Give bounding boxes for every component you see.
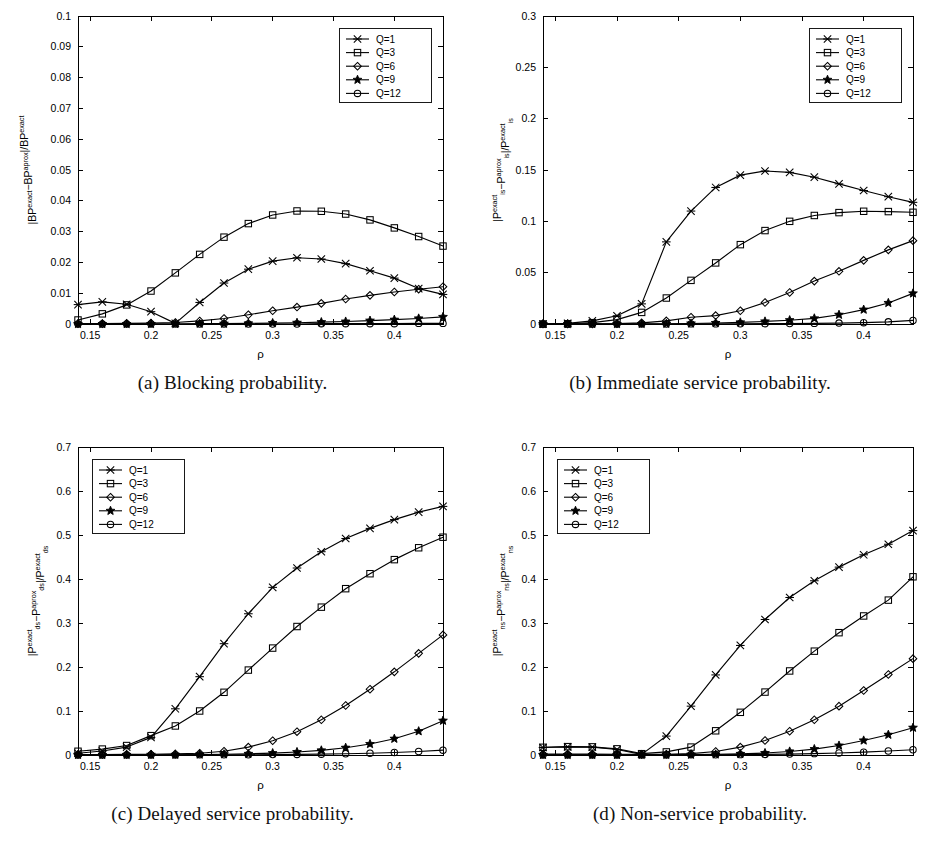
plot-area-b: 0.150.20.250.30.350.400.050.10.150.20.25… [465,0,935,370]
asterisk-marker [736,171,745,178]
x-tick-label: 0.3 [733,760,748,772]
y-tick-label: 0 [530,318,536,330]
asterisk-marker [785,594,794,601]
legend-label: Q=6 [129,492,149,503]
series-line [543,211,913,324]
x-tick-label: 0.4 [856,329,871,341]
legend-label: Q=9 [376,74,396,85]
legend: Q=1Q=3Q=6Q=9Q=12 [92,459,184,533]
legend-label: Q=9 [129,505,149,516]
series-line [78,506,443,753]
panel-c: 0.150.20.250.30.350.400.10.20.30.40.50.6… [0,431,465,862]
x-tick-label: 0.2 [610,329,625,341]
series-line [543,171,913,324]
series-line [543,577,913,754]
x-tick-label: 0.35 [792,329,813,341]
legend-label: Q=6 [846,61,866,72]
x-tick-label: 0.2 [144,760,159,772]
asterisk-marker [268,584,277,591]
asterisk-marker [810,577,819,584]
y-tick-label: 0.3 [56,617,71,629]
asterisk-marker [835,180,844,187]
legend-label: Q=1 [129,465,149,476]
star-marker [439,312,448,320]
x-tick-label: 0.35 [323,760,344,772]
caption-a: (a) Blocking probability. [138,372,328,394]
asterisk-marker [884,541,893,548]
legend-label: Q=1 [594,465,614,476]
legend-label: Q=12 [129,519,154,530]
y-tick-label: 0.2 [521,661,536,673]
y-tick-label: 0.3 [521,617,536,629]
series-q-12 [75,747,446,758]
star-marker [366,739,375,747]
x-tick-label: 0.3 [265,329,280,341]
x-tick-label: 0.35 [323,329,344,341]
x-axis-title: ρ [725,348,732,360]
x-tick-label: 0.25 [202,760,223,772]
star-marker [414,727,423,735]
chart-svg-a: 0.150.20.250.30.350.400.010.020.030.040.… [0,0,465,370]
asterisk-marker [244,610,253,617]
plot-area-c: 0.150.20.250.30.350.400.10.20.30.40.50.6… [0,431,465,801]
y-axis-title: |Pexactns−Paproxns|/Pexactns [490,545,515,656]
series-line [78,537,443,751]
star-marker [390,734,399,742]
x-tick-label: 0.15 [545,760,566,772]
asterisk-marker [341,260,350,267]
star-marker [884,298,893,306]
asterisk-marker [711,184,720,191]
x-tick-label: 0.15 [80,329,101,341]
chart-svg-d: 0.150.20.250.30.350.400.10.20.30.40.50.6… [465,431,935,801]
panel-b: 0.150.20.250.30.350.400.050.10.150.20.25… [465,0,935,431]
y-tick-label: 0.7 [521,441,536,453]
asterisk-marker [687,207,696,214]
star-marker [810,314,819,322]
star-marker [884,730,893,738]
series-q-6 [539,237,917,328]
y-tick-label: 0.3 [521,10,536,22]
x-tick-label: 0.2 [144,329,159,341]
asterisk-marker [835,563,844,570]
star-marker [439,716,448,724]
legend-label: Q=9 [846,74,866,85]
caption-c: (c) Delayed service probability. [111,803,354,825]
y-tick-label: 0.1 [521,705,536,717]
x-axis-title: ρ [725,779,732,791]
asterisk-marker [810,173,819,180]
y-tick-label: 0.1 [521,215,536,227]
y-tick-label: 0.2 [521,112,536,124]
asterisk-marker [859,187,868,194]
panel-d: 0.150.20.250.30.350.400.10.20.30.40.50.6… [465,431,935,862]
y-tick-label: 0.05 [516,266,537,278]
y-tick-label: 0.09 [51,40,72,52]
legend-label: Q=12 [846,88,871,99]
asterisk-marker [884,193,893,200]
asterisk-marker [662,238,671,245]
y-tick-label: 0 [65,749,71,761]
y-tick-label: 0.1 [56,10,71,22]
x-tick-label: 0.25 [202,329,223,341]
y-tick-label: 0.05 [51,164,72,176]
asterisk-marker [761,167,770,174]
y-tick-label: 0.06 [51,133,72,145]
legend-label: Q=3 [594,478,614,489]
series-q-1 [539,527,918,758]
series-line [543,728,913,755]
asterisk-marker [414,508,423,515]
asterisk-marker [341,535,350,542]
series-line [78,323,443,324]
asterisk-marker [293,564,302,571]
x-tick-label: 0.4 [856,760,871,772]
x-axis-title: ρ [257,779,264,791]
y-tick-label: 0.6 [56,485,71,497]
asterisk-marker [859,551,868,558]
y-tick-label: 0 [65,318,71,330]
plot-area-a: 0.150.20.250.30.350.400.010.020.030.040.… [0,0,465,370]
series-q-3 [540,574,916,757]
star-marker [909,289,918,297]
y-tick-label: 0.1 [56,705,71,717]
y-tick-label: 0.03 [51,225,72,237]
y-tick-label: 0.15 [516,164,537,176]
asterisk-marker [293,254,302,261]
